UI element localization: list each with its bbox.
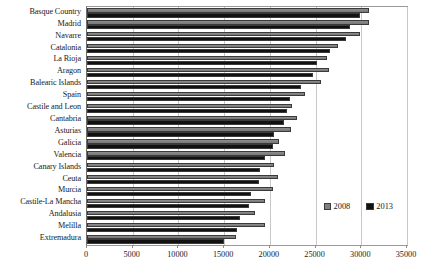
bar-group bbox=[87, 19, 407, 31]
bar-group bbox=[87, 233, 407, 245]
category-label: Ceuta bbox=[0, 173, 84, 185]
bar-2013 bbox=[87, 85, 301, 89]
bar-2013 bbox=[87, 168, 260, 172]
bar-2013 bbox=[87, 204, 249, 208]
category-label: Balearic Islands bbox=[0, 77, 84, 89]
category-label: Asturias bbox=[0, 125, 84, 137]
gray-square-swatch bbox=[324, 203, 332, 211]
bar-group bbox=[87, 174, 407, 186]
bar-2008 bbox=[87, 56, 327, 60]
bar-2013 bbox=[87, 228, 237, 232]
bar-2008 bbox=[87, 32, 360, 36]
bar-2008 bbox=[87, 8, 369, 12]
bar-2013 bbox=[87, 216, 240, 220]
bar-2008 bbox=[87, 116, 297, 120]
x-tick-label: 0 bbox=[84, 250, 88, 259]
legend-label: 2013 bbox=[376, 202, 393, 211]
bar-2008 bbox=[87, 68, 329, 72]
category-label: Castile and Leon bbox=[0, 101, 84, 113]
plot-area: 20082013 bbox=[86, 6, 408, 246]
bar-2013 bbox=[87, 120, 284, 124]
x-tick bbox=[177, 245, 178, 248]
bar-2013 bbox=[87, 97, 290, 101]
bar-group bbox=[87, 31, 407, 43]
x-tick bbox=[315, 245, 316, 248]
bar-group bbox=[87, 55, 407, 67]
x-tick-label: 15000 bbox=[213, 250, 233, 259]
category-label: Galicia bbox=[0, 137, 84, 149]
category-label: Extremadura bbox=[0, 232, 84, 244]
bar-2008 bbox=[87, 80, 321, 84]
x-tick bbox=[406, 245, 407, 248]
x-tick-label: 35000 bbox=[396, 250, 416, 259]
category-label: Melilla bbox=[0, 220, 84, 232]
bar-group bbox=[87, 150, 407, 162]
bar-group bbox=[87, 209, 407, 221]
x-tick bbox=[132, 245, 133, 248]
bar-2013 bbox=[87, 132, 274, 136]
category-label: Andalusia bbox=[0, 208, 84, 220]
category-label: Spain bbox=[0, 89, 84, 101]
bar-2008 bbox=[87, 44, 338, 48]
bar-2008 bbox=[87, 151, 285, 155]
x-axis: 05000100001500020000250003000035000 bbox=[86, 245, 406, 269]
bar-2008 bbox=[87, 223, 265, 227]
bar-chart: Basque CountryMadridNavarreCataloniaLa R… bbox=[0, 0, 436, 274]
bar-2013 bbox=[87, 144, 273, 148]
category-label: Cantabria bbox=[0, 113, 84, 125]
category-label: Madrid bbox=[0, 18, 84, 30]
bar-2013 bbox=[87, 49, 330, 53]
category-label: Murcia bbox=[0, 185, 84, 197]
bar-group bbox=[87, 90, 407, 102]
legend-item: 2008 bbox=[324, 202, 351, 211]
x-tick-label: 30000 bbox=[350, 250, 370, 259]
category-label: Valencia bbox=[0, 149, 84, 161]
bar-2013 bbox=[87, 73, 313, 77]
bar-2008 bbox=[87, 20, 369, 24]
category-label: Navarre bbox=[0, 30, 84, 42]
category-label: Catalonia bbox=[0, 42, 84, 54]
bar-2013 bbox=[87, 13, 360, 17]
x-tick bbox=[86, 245, 87, 248]
bar-group bbox=[87, 67, 407, 79]
bar-2008 bbox=[87, 139, 279, 143]
x-tick bbox=[223, 245, 224, 248]
bar-group bbox=[87, 114, 407, 126]
bar-2013 bbox=[87, 180, 259, 184]
category-axis: Basque CountryMadridNavarreCataloniaLa R… bbox=[0, 6, 84, 244]
black-square-swatch bbox=[366, 203, 374, 211]
bar-group bbox=[87, 126, 407, 138]
legend-item: 2013 bbox=[366, 202, 393, 211]
bar-2013 bbox=[87, 37, 346, 41]
category-label: Castile-La Mancha bbox=[0, 197, 84, 209]
bar-group bbox=[87, 138, 407, 150]
legend-label: 2008 bbox=[334, 202, 351, 211]
x-tick-label: 10000 bbox=[167, 250, 187, 259]
bar-2013 bbox=[87, 156, 265, 160]
bar-2013 bbox=[87, 109, 287, 113]
category-label: Aragon bbox=[0, 66, 84, 78]
bar-group bbox=[87, 162, 407, 174]
bar-group bbox=[87, 7, 407, 19]
bar-2013 bbox=[87, 25, 350, 29]
bar-group bbox=[87, 186, 407, 198]
x-tick-label: 25000 bbox=[304, 250, 324, 259]
bar-2008 bbox=[87, 127, 291, 131]
gridline bbox=[407, 7, 408, 245]
bar-2008 bbox=[87, 235, 236, 239]
category-label: La Rioja bbox=[0, 54, 84, 66]
x-tick bbox=[360, 245, 361, 248]
x-tick-label: 20000 bbox=[259, 250, 279, 259]
category-label: Basque Country bbox=[0, 6, 84, 18]
x-tick bbox=[269, 245, 270, 248]
bar-2008 bbox=[87, 163, 274, 167]
bar-2008 bbox=[87, 104, 292, 108]
x-tick-label: 5000 bbox=[124, 250, 140, 259]
bar-group bbox=[87, 102, 407, 114]
bar-group bbox=[87, 78, 407, 90]
bar-2008 bbox=[87, 187, 273, 191]
bar-2013 bbox=[87, 239, 224, 243]
bar-2008 bbox=[87, 211, 255, 215]
bar-2013 bbox=[87, 192, 251, 196]
bar-2013 bbox=[87, 61, 317, 65]
